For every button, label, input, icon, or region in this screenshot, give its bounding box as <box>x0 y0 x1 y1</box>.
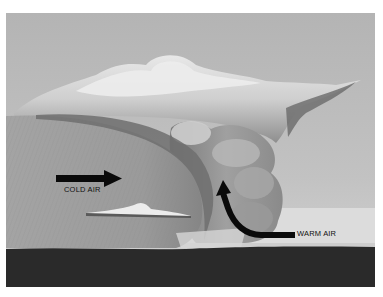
cold-air-label: COLD AIR <box>64 185 101 194</box>
ground <box>6 247 375 287</box>
cloud-puff <box>212 139 260 167</box>
warm-air-label: WARM AIR <box>297 229 336 238</box>
cloud-puff <box>234 167 274 199</box>
storm-illustration: COLD AIR WARM AIR <box>6 13 375 287</box>
storm-scene <box>6 13 375 287</box>
